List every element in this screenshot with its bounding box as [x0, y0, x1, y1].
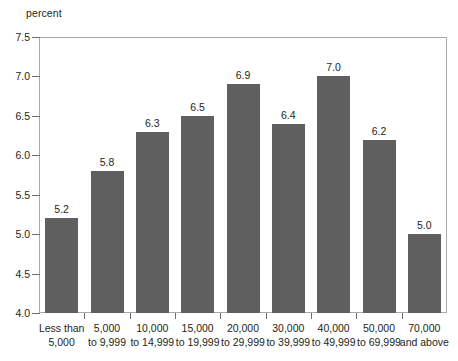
bar	[181, 116, 214, 313]
x-axis-category-label: 70,000and above	[394, 322, 454, 349]
y-axis-tick-label: 5.5	[2, 190, 30, 201]
y-axis-tick-label: 7.0	[2, 71, 30, 82]
bar-chart: percent 7.57.06.56.05.55.04.54.0 5.25.86…	[0, 0, 458, 361]
bar	[91, 171, 124, 313]
x-axis-tick	[311, 313, 312, 319]
bar	[317, 76, 350, 313]
x-axis-tick	[84, 313, 85, 319]
y-axis-tick	[32, 313, 40, 314]
bar-value-label: 5.0	[404, 220, 444, 231]
x-axis-tick	[266, 313, 267, 319]
x-axis-tick	[356, 313, 357, 319]
bar	[45, 218, 78, 313]
y-axis-tick-label: 7.5	[2, 32, 30, 43]
bar-value-label: 6.4	[268, 110, 308, 121]
y-axis-tick-label: 6.0	[2, 150, 30, 161]
bar-value-label: 6.5	[178, 102, 218, 113]
bar-value-label: 5.8	[87, 157, 127, 168]
bar-value-label: 7.0	[314, 62, 354, 73]
bar-value-label: 6.2	[359, 126, 399, 137]
bar	[227, 84, 260, 313]
y-axis-title: percent	[26, 7, 62, 19]
bar-value-label: 6.3	[132, 118, 172, 129]
bar	[408, 234, 441, 313]
x-axis-label-line2: and above	[394, 336, 454, 350]
x-axis-tick	[402, 313, 403, 319]
x-axis-tick	[175, 313, 176, 319]
bar	[136, 132, 169, 313]
y-axis-tick-label: 5.0	[2, 229, 30, 240]
y-axis-tick-label: 4.5	[2, 269, 30, 280]
bar-value-label: 6.9	[223, 70, 263, 81]
bar-value-label: 5.2	[42, 204, 82, 215]
bar	[272, 124, 305, 313]
y-axis-tick-label: 4.0	[2, 308, 30, 319]
x-axis-tick	[130, 313, 131, 319]
x-axis-tick	[220, 313, 221, 319]
bar	[363, 140, 396, 313]
y-axis-tick-label: 6.5	[2, 111, 30, 122]
x-axis-label-line1: 70,000	[394, 322, 454, 336]
